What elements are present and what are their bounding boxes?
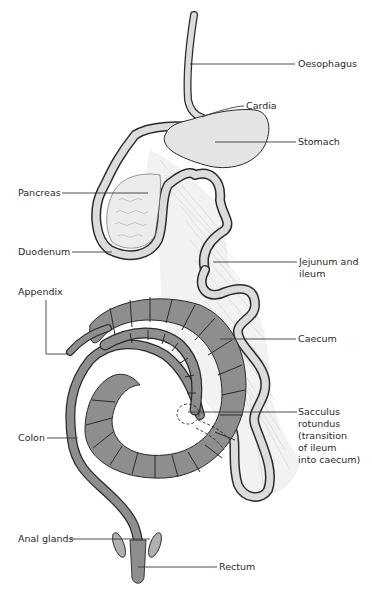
label-stomach: Stomach [298, 136, 340, 148]
label-colon: Colon [18, 432, 45, 444]
label-pancreas: Pancreas [18, 187, 61, 199]
label-cardia: Cardia [246, 100, 277, 112]
stomach [164, 109, 269, 167]
oesophagus [187, 15, 203, 118]
pancreas [107, 174, 161, 248]
label-rectum: Rectum [219, 561, 255, 573]
label-caecum: Caecum [298, 333, 337, 345]
label-oesophagus: Oesophagus [298, 58, 357, 70]
label-jejunum-ileum: Jejunum and ileum [299, 256, 359, 280]
label-duodenum: Duodenum [18, 246, 70, 258]
label-appendix: Appendix [18, 286, 63, 298]
label-sacculus-rotundus: Sacculus rotundus (transition of ileum i… [298, 406, 360, 466]
label-anal-glands: Anal glands [18, 533, 74, 545]
